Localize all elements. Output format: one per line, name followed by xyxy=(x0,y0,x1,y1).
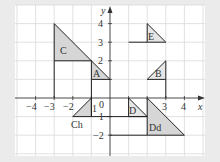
y-tick-4: 4 xyxy=(98,18,103,29)
y-axis-label: y xyxy=(100,5,106,16)
y-tick-m2: −2 xyxy=(93,130,104,141)
label-c: C xyxy=(60,45,67,56)
x-tick-m4: −4 xyxy=(26,101,37,112)
coordinate-grid: C A Ch D Dd B E y x −4 −3 −2 1 0 3 4 4 3… xyxy=(0,0,220,162)
x-tick-4: 4 xyxy=(181,101,186,112)
diagram-frame: C A Ch D Dd B E y x −4 −3 −2 1 0 3 4 4 3… xyxy=(0,0,220,162)
label-d: D xyxy=(129,105,136,116)
x-tick-m3: −3 xyxy=(44,101,55,112)
label-dd: Dd xyxy=(149,122,161,133)
x-tick-m2: −2 xyxy=(63,101,74,112)
x-axis-label: x xyxy=(197,101,203,112)
x-tick-origin: 0 xyxy=(99,99,104,110)
label-a: A xyxy=(93,68,101,79)
x-tick-3: 3 xyxy=(162,101,167,112)
label-ch: Ch xyxy=(71,119,83,130)
y-tick-2: 2 xyxy=(98,55,103,66)
y-tick-3: 3 xyxy=(98,37,103,48)
y-tick-m1: −1 xyxy=(93,111,104,122)
label-e: E xyxy=(148,31,154,42)
label-b: B xyxy=(155,68,162,79)
